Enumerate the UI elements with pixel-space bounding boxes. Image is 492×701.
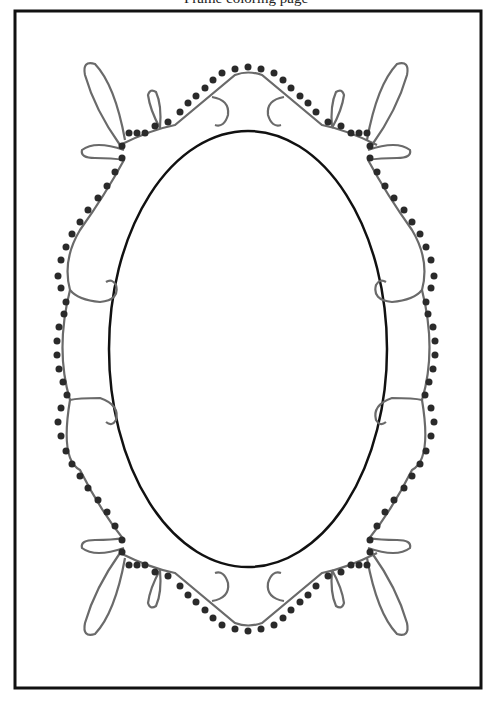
center-oval: [109, 131, 387, 567]
ornamental-vine: [63, 63, 430, 635]
ornamental-dots: [54, 64, 439, 635]
page-border: [15, 11, 481, 688]
frame-illustration: [0, 0, 492, 701]
